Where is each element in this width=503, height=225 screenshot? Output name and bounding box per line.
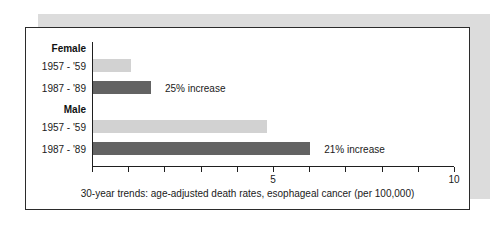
- x-tick-10: [454, 167, 455, 172]
- x-tick-label-5: 5: [270, 174, 276, 185]
- x-tick-2: [164, 167, 165, 172]
- category-label-female-1: 1987 - '89: [42, 83, 86, 94]
- figure-frame: 510 Female1957 - '591987 - '8925% increa…: [25, 27, 470, 210]
- x-tick-5: [273, 167, 274, 172]
- x-tick-6: [309, 167, 310, 172]
- group-label-female: Female: [52, 43, 86, 54]
- x-tick-7: [345, 167, 346, 172]
- bar-annotation-female: 25% increase: [165, 83, 226, 94]
- x-tick-label-10: 10: [448, 174, 459, 185]
- group-label-male: Male: [64, 104, 86, 115]
- x-tick-1: [128, 167, 129, 172]
- bar-female-0: [93, 59, 131, 72]
- x-tick-8: [382, 167, 383, 172]
- x-tick-9: [418, 167, 419, 172]
- x-tick-0: [92, 167, 93, 172]
- chart-caption: 30-year trends: age-adjusted death rates…: [26, 188, 469, 199]
- bar-female-1: [93, 81, 151, 94]
- category-label-male-1: 1987 - '89: [42, 144, 86, 155]
- category-label-male-0: 1957 - '59: [42, 122, 86, 133]
- x-tick-4: [237, 167, 238, 172]
- category-label-female-0: 1957 - '59: [42, 61, 86, 72]
- chart-figure: 510 Female1957 - '591987 - '8925% increa…: [0, 0, 503, 225]
- bar-annotation-male: 21% increase: [324, 144, 385, 155]
- bar-male-0: [93, 120, 267, 133]
- x-tick-3: [201, 167, 202, 172]
- bar-male-1: [93, 142, 310, 155]
- plot-area: 510 Female1957 - '591987 - '8925% increa…: [26, 28, 469, 209]
